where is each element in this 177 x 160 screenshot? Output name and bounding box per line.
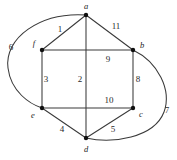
vertex-label-f: f (33, 38, 37, 48)
edge-label-10: 10 (105, 95, 115, 105)
edge-11-a-b (86, 15, 133, 50)
vertex-dot-c (131, 106, 135, 110)
edge-label-3: 3 (44, 74, 49, 84)
vertex-label-d: d (84, 144, 89, 154)
vertex-label-c: c (139, 109, 143, 119)
edge-label-4: 4 (60, 124, 65, 134)
vertex-dot-d (84, 136, 88, 140)
vertex-dot-e (40, 106, 44, 110)
edge-label-1: 1 (58, 24, 63, 34)
edge-7-b-d-curve (86, 50, 166, 140)
edge-6-f-e-curve (8, 15, 86, 108)
vertex-dot-a (84, 13, 88, 17)
edge-1-a-f (42, 15, 86, 50)
graph-diagram-canvas: a f b e c d 1 11 6 9 3 2 8 10 4 5 7 (0, 0, 177, 160)
edge-label-2: 2 (78, 74, 83, 84)
edge-label-11: 11 (112, 21, 121, 31)
vertex-dot-f (40, 48, 44, 52)
edge-label-9: 9 (106, 54, 111, 64)
edge-label-5: 5 (111, 124, 116, 134)
edge-5-c-d (86, 108, 133, 138)
edge-label-7: 7 (165, 105, 170, 115)
vertex-label-b: b (140, 40, 144, 50)
vertex-dot-b (131, 48, 135, 52)
vertex-label-a: a (84, 1, 88, 11)
edge-label-6: 6 (9, 42, 14, 52)
graph-svg: a f b e c d 1 11 6 9 3 2 8 10 4 5 7 (0, 0, 177, 160)
edge-label-8: 8 (136, 74, 141, 84)
vertex-label-e: e (31, 110, 35, 120)
